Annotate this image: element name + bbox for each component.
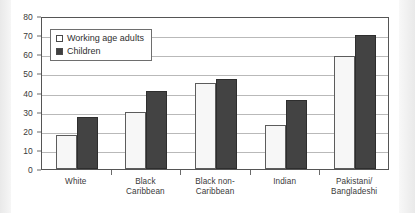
bar-children (286, 100, 307, 169)
x-tick-mark (180, 170, 181, 175)
y-tick-label: 80 (23, 12, 33, 22)
bar-adults (265, 125, 286, 169)
bar-children (355, 35, 376, 169)
y-tick-label: 70 (23, 31, 33, 41)
bar-adults (56, 135, 77, 169)
y-tick-label: 60 (23, 50, 33, 60)
bar-children (146, 91, 167, 169)
y-tick-label: 20 (23, 127, 33, 137)
chart-legend: Working age adultsChildren (50, 29, 152, 61)
bar-group (181, 18, 251, 169)
legend-label: Children (67, 46, 101, 57)
page-edge-shadow-right (399, 0, 415, 213)
bar-adults (334, 56, 355, 169)
legend-swatch-children (56, 48, 63, 55)
y-tick-label: 50 (23, 69, 33, 79)
y-tick-label: 30 (23, 108, 33, 118)
legend-item: Working age adults (56, 33, 144, 44)
y-tick-label: 0 (28, 165, 33, 175)
bar-adults (195, 83, 216, 169)
x-tick-label: Indian (273, 177, 296, 187)
bar-children (77, 117, 98, 169)
bar-group (320, 18, 390, 169)
x-tick-mark (111, 170, 112, 175)
legend-swatch-adults (56, 35, 63, 42)
legend-item: Children (56, 46, 144, 57)
x-tick-label: White (65, 177, 86, 187)
x-tick-label: Black non- Caribbean (195, 177, 235, 197)
x-axis: WhiteBlack CaribbeanBlack non- Caribbean… (41, 170, 389, 213)
bar-adults (125, 112, 146, 169)
y-tick-label: 10 (23, 146, 33, 156)
bar-children (216, 79, 237, 169)
x-tick-label: Black Caribbean (126, 177, 165, 197)
bar-group (251, 18, 321, 169)
x-tick-mark (250, 170, 251, 175)
chart-page: 01020304050607080 WhiteBlack CaribbeanBl… (0, 0, 415, 213)
y-axis: 01020304050607080 (0, 0, 41, 213)
x-tick-mark (319, 170, 320, 175)
x-tick-label: Pakistani/ Bangladeshi (331, 177, 377, 197)
legend-label: Working age adults (67, 33, 144, 44)
y-tick-label: 40 (23, 89, 33, 99)
